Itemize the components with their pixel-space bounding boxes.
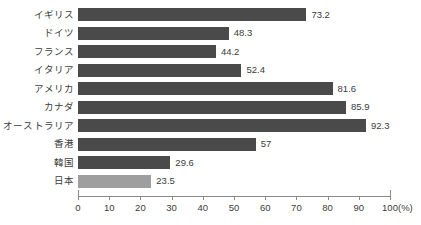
bar-segment <box>78 101 346 114</box>
bar-segment <box>78 82 333 95</box>
x-axis-tick <box>109 196 110 200</box>
bar-chart: イギリス 73.2 ドイツ 48.3 フランス 44.2 イタリア 52.4 ア… <box>0 0 421 225</box>
x-axis-tick <box>296 196 297 200</box>
x-axis-tick-label: 20 <box>135 203 146 213</box>
x-axis-tick <box>390 196 391 200</box>
category-label: カナダ <box>44 102 74 112</box>
category-label: 香港 <box>54 139 74 149</box>
x-axis-tick-label: 90 <box>354 203 365 213</box>
category-label: 韓国 <box>54 158 74 168</box>
category-label: アメリカ <box>34 84 74 94</box>
value-label: 81.6 <box>338 84 357 94</box>
x-axis-tick-label: 40 <box>198 203 209 213</box>
x-axis-tick-label: 10 <box>104 203 115 213</box>
bar-segment <box>78 27 229 40</box>
value-label: 48.3 <box>234 28 253 38</box>
x-axis-tick <box>172 196 173 200</box>
bar-segment <box>78 119 366 132</box>
bar-segment <box>78 156 170 169</box>
bar-row: ドイツ 48.3 <box>0 27 421 40</box>
x-axis-tick-label: 0 <box>75 203 80 213</box>
x-axis-tick <box>328 196 329 200</box>
bar-segment-highlight <box>78 175 151 188</box>
bar-segment <box>78 45 216 58</box>
category-label: イギリス <box>34 10 74 20</box>
bar-segment <box>78 138 256 151</box>
x-axis-tick <box>265 196 266 200</box>
value-label: 44.2 <box>221 47 240 57</box>
category-label: イタリア <box>34 65 74 75</box>
x-axis-tick <box>359 196 360 200</box>
bar-row: 日本 23.5 <box>0 175 421 188</box>
bar-row: イタリア 52.4 <box>0 64 421 77</box>
x-axis-tick-label: 60 <box>260 203 271 213</box>
bar-segment <box>78 64 241 77</box>
bar-row: 韓国 29.6 <box>0 156 421 169</box>
x-axis-tick-label: 100 <box>382 203 398 213</box>
value-label: 29.6 <box>175 158 194 168</box>
x-axis-tick <box>203 196 204 200</box>
bar-row: アメリカ 81.6 <box>0 82 421 95</box>
plot-area: イギリス 73.2 ドイツ 48.3 フランス 44.2 イタリア 52.4 ア… <box>0 0 421 225</box>
category-label: ドイツ <box>44 28 74 38</box>
category-label: フランス <box>34 47 74 57</box>
value-label: 23.5 <box>156 176 175 186</box>
x-axis-tick <box>78 196 79 200</box>
x-axis-unit-label: (%) <box>398 203 413 213</box>
value-label: 52.4 <box>246 65 265 75</box>
bar-row: イギリス 73.2 <box>0 8 421 21</box>
value-label: 92.3 <box>371 121 390 131</box>
bar-row: フランス 44.2 <box>0 45 421 58</box>
x-axis-tick <box>234 196 235 200</box>
x-axis-tick-label: 50 <box>229 203 240 213</box>
bar-row: オーストラリア 92.3 <box>0 119 421 132</box>
bar-row: カナダ 85.9 <box>0 101 421 114</box>
value-label: 57 <box>261 139 272 149</box>
bar-segment <box>78 8 306 21</box>
value-label: 73.2 <box>311 10 330 20</box>
x-axis-tick-label: 80 <box>322 203 333 213</box>
category-label: 日本 <box>54 176 74 186</box>
x-axis-tick <box>140 196 141 200</box>
x-axis-tick-label: 30 <box>166 203 177 213</box>
category-label: オーストラリア <box>3 121 74 131</box>
value-label: 85.9 <box>351 102 370 112</box>
bar-row: 香港 57 <box>0 138 421 151</box>
x-axis-tick-label: 70 <box>291 203 302 213</box>
